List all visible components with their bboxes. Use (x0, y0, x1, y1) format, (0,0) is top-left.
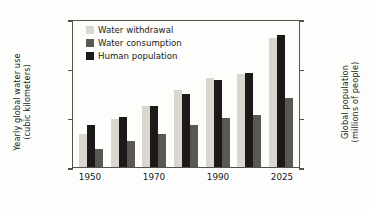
y-axis-right-title-line2: (millions of people) (350, 32, 360, 172)
water-use-population-chart: Yearly global water use (cubic kilometer… (0, 0, 369, 209)
y-axis-left-tick (68, 168, 73, 169)
bar-consumption (158, 134, 166, 167)
bar-population (150, 106, 158, 167)
legend-label: Human population (98, 51, 177, 61)
x-axis-tick-label: 1950 (68, 172, 112, 182)
x-axis-tick-label: 1970 (132, 172, 176, 182)
y-axis-left-title-line2: (cubic kilometers) (22, 32, 32, 172)
chart-legend: Water withdrawalWater consumptionHuman p… (86, 24, 182, 62)
y-axis-right-title: Global population (millions of people) (340, 32, 360, 172)
bar-population (245, 73, 253, 167)
bar-consumption (285, 98, 293, 167)
y-axis-right-tick (299, 119, 304, 120)
x-axis-tick-label: 1990 (196, 172, 240, 182)
x-axis-tick-label: 2025 (260, 172, 304, 182)
bar-population (87, 125, 95, 167)
y-axis-right-tick (299, 70, 304, 71)
y-axis-left-title-line1: Yearly global water use (12, 53, 22, 150)
bar-withdrawal (111, 119, 119, 167)
legend-item: Water consumption (86, 37, 182, 49)
bar-withdrawal (174, 90, 182, 167)
legend-swatch-consumption (86, 39, 94, 47)
bar-withdrawal (237, 74, 245, 168)
bar-withdrawal (79, 134, 87, 168)
bar-consumption (190, 125, 198, 167)
bar-consumption (95, 149, 103, 167)
bar-consumption (253, 115, 261, 167)
bar-population (214, 80, 222, 167)
legend-swatch-withdrawal (86, 26, 94, 34)
bar-consumption (127, 141, 135, 167)
y-axis-left-title: Yearly global water use (cubic kilometer… (12, 32, 32, 172)
y-axis-right-tick (299, 20, 304, 21)
y-axis-right-tick (299, 168, 304, 169)
legend-item: Water withdrawal (86, 24, 182, 36)
legend-label: Water withdrawal (98, 25, 173, 35)
bar-group (237, 21, 261, 167)
legend-label: Water consumption (98, 38, 182, 48)
legend-swatch-population (86, 52, 94, 60)
bar-population (119, 117, 127, 167)
bar-withdrawal (269, 38, 277, 167)
y-axis-right-title-line1: Global population (340, 65, 350, 139)
bar-group (206, 21, 230, 167)
bar-population (277, 35, 285, 167)
bar-withdrawal (206, 78, 214, 167)
bar-group (269, 21, 293, 167)
bar-consumption (222, 118, 230, 167)
legend-item: Human population (86, 50, 182, 62)
bar-withdrawal (142, 106, 150, 167)
bar-population (182, 94, 190, 167)
